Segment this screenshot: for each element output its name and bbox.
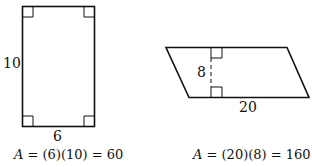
rectangle-width-label: 6	[53, 129, 62, 143]
rectangle-figure	[23, 7, 95, 127]
area-variable: A	[14, 147, 23, 162]
area-variable: A	[193, 147, 202, 162]
rectangle-shape	[23, 7, 95, 127]
right-angle-marker-top	[211, 48, 222, 59]
area-diagram	[0, 0, 312, 167]
parallelogram-height-label: 8	[197, 65, 206, 79]
rectangle-height-label: 10	[3, 56, 21, 70]
right-angle-marker-top-left	[23, 7, 34, 18]
right-angle-marker-top-right	[84, 7, 95, 18]
formula-expression: = (20)(8) = 160	[202, 147, 310, 162]
parallelogram-area-formula: A = (20)(8) = 160	[193, 148, 311, 162]
right-angle-marker-bottom-right	[84, 116, 95, 127]
right-angle-marker-bottom-left	[23, 116, 34, 127]
rectangle-area-formula: A = (6)(10) = 60	[14, 148, 123, 162]
parallelogram-figure	[166, 48, 309, 98]
parallelogram-base-label: 20	[239, 100, 257, 114]
parallelogram-shape	[166, 48, 309, 98]
formula-expression: = (6)(10) = 60	[23, 147, 123, 162]
right-angle-marker-bottom	[211, 87, 222, 98]
